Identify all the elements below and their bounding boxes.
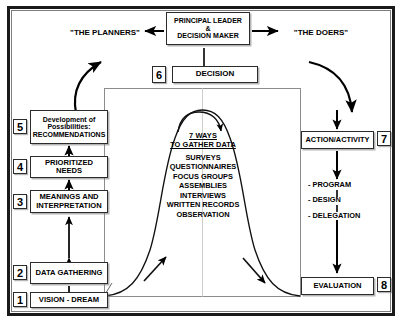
gather-item: ASSEMBLIES bbox=[136, 181, 270, 190]
step-7-number: 7 bbox=[377, 131, 391, 146]
gather-item: INTERVIEWS bbox=[136, 191, 270, 200]
step-4-number: 4 bbox=[13, 159, 27, 174]
gather-item: QUESTIONNAIRES bbox=[136, 162, 270, 171]
action-step: - DESIGN bbox=[308, 196, 382, 203]
action-step: - DELEGATION bbox=[308, 212, 382, 219]
step-3-number: 3 bbox=[13, 194, 27, 209]
step-5-line-3: RECOMMENDATIONS bbox=[33, 131, 106, 138]
step-2-box: DATA GATHERING bbox=[30, 262, 108, 284]
principal-leader-box: PRINCIPAL LEADER & DECISION MAKER bbox=[166, 12, 250, 45]
action-activity-box: ACTION/ACTIVITY bbox=[301, 131, 374, 149]
principal-line-2: & bbox=[174, 25, 242, 33]
gather-heading-line-2: TO GATHER DATA bbox=[136, 140, 270, 149]
step-5-line-2: Possibilities: bbox=[47, 123, 90, 130]
step-5-box: Development of Possibilities: RECOMMENDA… bbox=[30, 110, 108, 144]
step-8-number: 8 bbox=[377, 277, 391, 292]
step-1-number: 1 bbox=[13, 292, 27, 307]
gather-item: SURVEYS bbox=[136, 153, 270, 162]
decision-box: DECISION bbox=[172, 66, 258, 83]
action-steps-list: - PROGRAM - DESIGN - DELEGATION bbox=[308, 181, 382, 219]
step-2-line-2: GATHERING bbox=[57, 268, 102, 277]
step-3-box: MEANINGS AND INTERPRETATION bbox=[30, 190, 108, 213]
gather-item: WRITTEN RECORDS bbox=[136, 200, 270, 209]
gather-item: FOCUS GROUPS bbox=[136, 172, 270, 181]
gather-item: OBSERVATION bbox=[136, 210, 270, 219]
diagram-canvas: PRINCIPAL LEADER & DECISION MAKER "THE P… bbox=[0, 0, 405, 330]
step-5-number: 5 bbox=[13, 119, 27, 134]
step-5-line-1: Development of bbox=[43, 116, 96, 123]
step-4-line-2: NEEDS bbox=[56, 166, 82, 175]
step-2-number: 2 bbox=[13, 265, 27, 280]
step-2-line-1: DATA bbox=[36, 268, 56, 277]
action-step: - PROGRAM bbox=[308, 181, 382, 188]
evaluation-box: EVALUATION bbox=[301, 277, 374, 295]
step-1-box: VISION - DREAM bbox=[30, 292, 108, 308]
decision-number: 6 bbox=[152, 66, 166, 83]
principal-line-1: PRINCIPAL LEADER bbox=[174, 17, 242, 25]
gather-heading-line-1: 7 WAYS bbox=[136, 131, 270, 140]
principal-line-3: DECISION MAKER bbox=[174, 32, 242, 40]
doers-label: "THE DOERS" bbox=[283, 28, 359, 37]
gather-data-list: 7 WAYS TO GATHER DATA SURVEYS QUESTIONNA… bbox=[136, 131, 270, 219]
planners-label: "THE PLANNERS" bbox=[62, 28, 148, 37]
step-3-line-2: INTERPRETATION bbox=[36, 201, 102, 210]
step-4-box: PRIORITIZED NEEDS bbox=[30, 156, 108, 178]
